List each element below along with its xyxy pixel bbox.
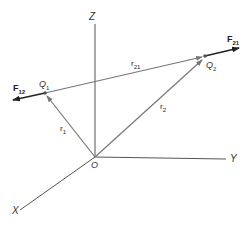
origin-label: O bbox=[91, 161, 98, 170]
r2-label: r2 bbox=[160, 103, 166, 113]
q2-point bbox=[203, 54, 207, 58]
y-axis-label: Y bbox=[230, 154, 237, 164]
q1-label: Q1 bbox=[39, 80, 49, 91]
y-axis bbox=[95, 157, 226, 159]
x-axis-label: X bbox=[12, 206, 19, 216]
x-axis bbox=[20, 157, 95, 210]
f21-force-arrow bbox=[205, 48, 239, 56]
f21-label: F21 bbox=[227, 35, 239, 46]
r21-vector bbox=[45, 57, 202, 93]
q1-point bbox=[43, 91, 47, 95]
z-axis-label: Z bbox=[89, 12, 95, 22]
q2-label: Q2 bbox=[206, 61, 216, 72]
f12-label: F12 bbox=[13, 84, 25, 95]
r1-label: r1 bbox=[60, 125, 66, 135]
diagram-canvas bbox=[0, 0, 249, 227]
r1-vector bbox=[47, 96, 95, 157]
r2-vector bbox=[95, 60, 202, 157]
r21-label: r21 bbox=[131, 60, 140, 70]
